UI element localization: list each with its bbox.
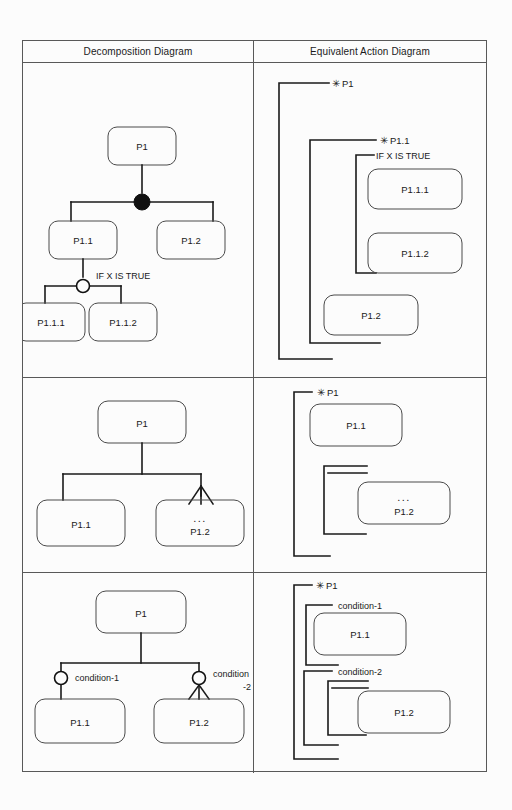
cell-row2-action: ✳ P1 P1.1 ... P1.2 (254, 378, 487, 572)
bracket-p1-1-marker: ✳ (380, 135, 388, 146)
selection-condition-label: IF X IS TRUE (96, 271, 150, 281)
action-box-p1-2-repeat-glyph: ... (397, 491, 411, 503)
bracket-p1 (294, 585, 338, 759)
node-p1-label: P1 (136, 418, 148, 429)
node-p1-2-repeat-glyph: ... (193, 512, 207, 524)
node-p1-1-label: P1.1 (71, 519, 91, 530)
bracket-repetition (324, 466, 367, 534)
action-box-p1-2-label: P1.2 (361, 310, 381, 321)
bracket-if-x-is-true-label: IF X IS TRUE (376, 151, 430, 161)
node-p1-1-2-label: P1.1.2 (109, 317, 136, 328)
crows-foot-icon-left (189, 486, 201, 504)
action-box-p1-2-label: P1.2 (394, 707, 414, 718)
bracket-if-x-is-true (356, 155, 376, 273)
action-box-p1-1-2-label: P1.1.2 (401, 248, 428, 259)
cell-row1-action: ✳ P1 ✳ P1.1 IF X IS TRUE P1.1.1 P1.1.2 P… (254, 63, 487, 377)
crows-foot-icon-left (189, 685, 199, 699)
node-p1-label: P1 (136, 141, 148, 152)
column-header-decomposition: Decomposition Diagram (23, 41, 253, 63)
node-p1-label: P1 (135, 608, 147, 619)
table-header-row: Decomposition Diagram Equivalent Action … (23, 41, 486, 63)
open-circle-icon-condition-2 (193, 672, 206, 685)
node-p1-2-label: P1.2 (189, 717, 209, 728)
open-circle-icon (77, 280, 90, 293)
node-p1-1-label: P1.1 (73, 235, 93, 246)
bracket-repetition (328, 681, 368, 735)
bracket-p1-marker: ✳ (316, 580, 324, 591)
diagram-sheet: Decomposition Diagram Equivalent Action … (22, 40, 487, 772)
bracket-p1-marker: ✳ (317, 387, 325, 398)
node-p1-2-label: P1.2 (190, 526, 210, 537)
node-p1-2-label: P1.2 (181, 235, 201, 246)
action-box-p1-2 (358, 482, 450, 524)
filled-circle-icon (134, 194, 150, 210)
crows-foot-icon-right (199, 685, 209, 699)
condition-1-label: condition-1 (75, 673, 119, 683)
bracket-p1-label: P1 (326, 580, 338, 591)
bracket-condition-2 (304, 671, 338, 745)
cell-row3-decomposition: P1 condition-1 condition -2 P1.1 P1.2 (23, 573, 253, 772)
condition-2-label-line2: -2 (243, 682, 251, 692)
action-box-p1-1-label: P1.1 (350, 629, 370, 640)
bracket-p1-marker: ✳ (332, 78, 340, 89)
column-header-action: Equivalent Action Diagram (253, 41, 487, 63)
cell-row1-decomposition: P1 P1.1 P1.2 IF X IS TRUE P1.1.1 (23, 63, 253, 377)
bracket-condition-2-label: condition-2 (338, 667, 382, 677)
bracket-condition-1 (306, 605, 338, 665)
action-box-p1-2-label: P1.2 (394, 506, 414, 517)
bracket-condition-1-label: condition-1 (338, 601, 382, 611)
crows-foot-icon-right (201, 486, 213, 504)
cell-row2-decomposition: P1 P1.1 ... P1.2 (23, 378, 253, 572)
node-p1-1-label: P1.1 (70, 717, 90, 728)
node-p1-1-1-label: P1.1.1 (37, 317, 64, 328)
action-box-p1-1-label: P1.1 (346, 420, 366, 431)
bracket-p1-label: P1 (327, 387, 339, 398)
cell-row3-action: ✳ P1 condition-1 P1.1 condition-2 P1.2 (254, 573, 487, 772)
open-circle-icon-condition-1 (55, 672, 68, 685)
bracket-p1-1-label: P1.1 (390, 135, 410, 146)
condition-2-label-line1: condition (213, 669, 249, 679)
bracket-p1-label: P1 (342, 78, 354, 89)
action-box-p1-1-1-label: P1.1.1 (401, 184, 428, 195)
